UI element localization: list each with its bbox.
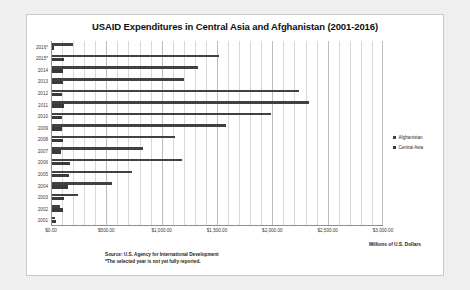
bar-central-asia: [51, 127, 62, 130]
y-axis-tick-label: 2010: [38, 114, 48, 119]
plot-area: [51, 41, 383, 226]
legend-item-label: Central Asia: [398, 145, 423, 150]
bar-central-asia: [51, 58, 64, 61]
bar-central-asia: [51, 174, 69, 177]
legend-item-label: Afghanistan: [398, 135, 422, 140]
bar-central-asia: [51, 208, 63, 211]
x-axis-tick-label: $2,500.00: [317, 228, 337, 233]
bar-row: [51, 145, 383, 157]
bar-afghanistan: [51, 90, 299, 93]
chart-notes: Source: U.S. Agency for International De…: [105, 251, 219, 265]
bar-central-asia: [51, 197, 64, 200]
footnote-note: *The selected year is not yet fully repo…: [105, 258, 219, 265]
chart-title: USAID Expenditures in Central Asia and A…: [27, 21, 443, 32]
bar-central-asia: [51, 69, 63, 72]
bar-afghanistan: [51, 124, 226, 127]
source-note: Source: U.S. Agency for International De…: [105, 251, 219, 258]
legend-item[interactable]: Afghanistan: [393, 135, 445, 140]
chart-panel: USAID Expenditures in Central Asia and A…: [26, 14, 444, 276]
legend-item[interactable]: Central Asia: [393, 145, 445, 150]
x-axis-labels: $0.00$500.00$1,000.00$1,500.00$2,000.00$…: [51, 228, 383, 240]
bar-afghanistan: [51, 159, 182, 162]
bar-row: [51, 203, 383, 215]
bar-row: [51, 41, 383, 53]
bar-row: [51, 99, 383, 111]
bar-afghanistan: [51, 136, 175, 139]
bar-central-asia: [51, 185, 68, 188]
bar-central-asia: [51, 81, 63, 84]
bar-row: [51, 191, 383, 203]
bar-afghanistan: [51, 113, 271, 116]
x-axis-tick-label: $1,500.00: [207, 228, 227, 233]
x-axis-tick-label: $1,000.00: [151, 228, 171, 233]
bar-afghanistan: [51, 78, 184, 81]
y-axis-tick-label: 2003: [38, 195, 48, 200]
y-axis-tick-label: 2002: [38, 206, 48, 211]
bar-central-asia: [51, 104, 64, 107]
y-axis-tick-label: 2016*: [36, 44, 48, 49]
bar-row: [51, 53, 383, 65]
y-axis-tick-label: 2011: [38, 102, 48, 107]
legend-swatch-icon: [393, 136, 396, 139]
bar-row: [51, 168, 383, 180]
y-axis-tick-label: 2012: [38, 91, 48, 96]
bar-afghanistan: [51, 66, 198, 69]
y-axis-tick-label: 2007: [38, 148, 48, 153]
bar-row: [51, 122, 383, 134]
bar-row: [51, 76, 383, 88]
y-axis-tick-label: 2014: [38, 67, 48, 72]
bar-central-asia: [51, 116, 62, 119]
y-axis-labels: 2016*2015*201420132012201120102009200820…: [27, 41, 51, 226]
bar-afghanistan: [51, 55, 219, 58]
y-axis-tick-label: 2005: [38, 171, 48, 176]
bar-central-asia: [51, 93, 62, 96]
bar-afghanistan: [51, 147, 143, 150]
x-axis-tick-label: $2,000.00: [262, 228, 282, 233]
y-axis-tick-label: 2013: [38, 79, 48, 84]
bar-central-asia: [51, 162, 70, 165]
bar-afghanistan: [51, 101, 309, 104]
bar-afghanistan: [51, 43, 73, 46]
bar-central-asia: [51, 139, 63, 142]
bar-central-asia: [51, 150, 61, 153]
screenshot-root: USAID Expenditures in Central Asia and A…: [0, 0, 470, 290]
bar-row: [51, 110, 383, 122]
y-axis-tick-label: 2004: [38, 183, 48, 188]
bar-rows: [51, 41, 383, 226]
bar-row: [51, 157, 383, 169]
y-axis-tick-label: 2001: [38, 218, 48, 223]
x-axis-tick-label: $0.00: [45, 228, 57, 233]
bar-row: [51, 87, 383, 99]
bar-row: [51, 64, 383, 76]
chart-legend: AfghanistanCentral Asia: [393, 135, 445, 155]
y-axis-tick-label: 2009: [38, 125, 48, 130]
y-axis-tick-label: 2006: [38, 160, 48, 165]
legend-swatch-icon: [393, 146, 396, 149]
x-axis-line: [51, 225, 383, 226]
y-axis-tick-label: 2015*: [36, 56, 48, 61]
bar-row: [51, 180, 383, 192]
x-axis-tick-label: $500.00: [98, 228, 115, 233]
y-axis-line: [51, 41, 52, 226]
bar-row: [51, 134, 383, 146]
y-axis-tick-label: 2008: [38, 137, 48, 142]
x-axis-caption: Millions of U.S. Dollars: [369, 242, 421, 247]
x-axis-tick-label: $3,000.00: [373, 228, 393, 233]
